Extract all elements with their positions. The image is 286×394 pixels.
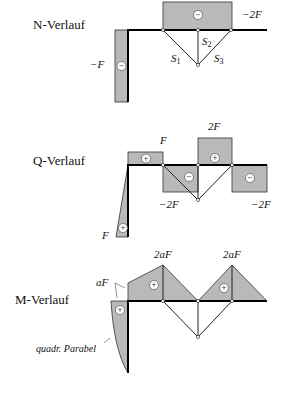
minus-sign-icon: − [194, 11, 203, 20]
plus-sign-icon: + [211, 154, 220, 163]
n-diagram: N-Verlauf − − −F −2F S1 S2 S3 [33, 2, 267, 102]
minus-sign-icon: − [185, 173, 194, 182]
plus-sign-icon: + [220, 284, 229, 293]
q-left-label: F [159, 134, 167, 146]
node [196, 299, 199, 302]
svg-text:+: + [120, 224, 126, 232]
q-mid-top-label: 2F [208, 120, 221, 132]
m-peak-left-label: 2aF [154, 248, 172, 260]
svg-text:+: + [151, 281, 157, 289]
internal-forces-diagram: N-Verlauf − − −F −2F S1 S2 S3 Q-Verlauf [0, 0, 286, 394]
af-leader [115, 283, 125, 298]
node [196, 335, 199, 338]
q-title: Q-Verlauf [33, 153, 86, 168]
n-column-label: −F [90, 58, 104, 70]
q-mid-neg-label: −2F [159, 198, 179, 210]
node [230, 163, 233, 166]
svg-text:−: − [119, 62, 125, 70]
svg-text:+: + [221, 284, 227, 292]
node [230, 299, 233, 302]
node [161, 163, 164, 166]
svg-text:+: + [212, 154, 218, 162]
n-beam-label: −2F [242, 8, 262, 20]
q-column-label: F [101, 229, 109, 241]
node [196, 28, 199, 31]
parabola-label: quadr. Parabel [36, 343, 96, 354]
q-diagram: Q-Verlauf + − + − [33, 120, 271, 241]
n-title: N-Verlauf [33, 17, 86, 32]
node [196, 198, 199, 201]
minus-sign-icon: − [246, 174, 255, 183]
plus-sign-icon: + [150, 281, 159, 290]
node [196, 63, 199, 66]
q-right-neg-label: −2F [251, 198, 271, 210]
svg-text:−: − [247, 174, 253, 182]
plus-sign-icon: + [116, 306, 125, 315]
parabola-leader [104, 338, 110, 343]
m-title: M-Verlauf [15, 292, 70, 307]
s2-label: S2 [202, 35, 212, 49]
plus-sign-icon: + [142, 154, 151, 163]
node [196, 163, 199, 166]
m-corner-label: aF [96, 276, 109, 288]
svg-text:−: − [186, 173, 192, 181]
plus-sign-icon: + [119, 224, 128, 233]
minus-sign-icon: − [117, 62, 126, 71]
m-peak-right-label: 2aF [223, 248, 241, 260]
node [161, 299, 164, 302]
node [229, 28, 232, 31]
s3-label: S3 [214, 52, 224, 66]
m-diagram: M-Verlauf + + + 2aF 2aF [15, 248, 267, 373]
svg-text:+: + [143, 155, 149, 163]
s1-label: S1 [171, 52, 181, 66]
node [161, 28, 164, 31]
svg-text:−: − [195, 11, 201, 19]
svg-text:+: + [117, 306, 123, 314]
